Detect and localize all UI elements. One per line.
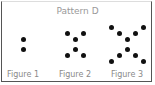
dot <box>141 59 146 64</box>
dot <box>109 25 114 30</box>
dot <box>65 31 70 36</box>
dot <box>117 53 122 58</box>
dot <box>125 37 130 42</box>
figure-1-label: Figure 1 <box>3 70 43 79</box>
dot <box>117 31 122 36</box>
dot <box>133 53 138 58</box>
pattern-title: Pattern D <box>0 6 155 16</box>
figure-3-label: Figure 3 <box>107 70 147 79</box>
dot <box>73 47 78 52</box>
dot <box>141 25 146 30</box>
dot <box>81 31 86 36</box>
figure-2-label: Figure 2 <box>55 70 95 79</box>
dot <box>21 47 26 52</box>
dot <box>73 37 78 42</box>
dot <box>21 37 26 42</box>
dot <box>109 59 114 64</box>
dot <box>133 31 138 36</box>
dot <box>65 53 70 58</box>
dot <box>81 53 86 58</box>
dot <box>125 47 130 52</box>
